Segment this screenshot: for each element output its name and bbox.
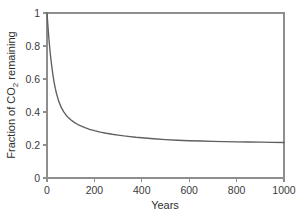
x-axis-tick-labels: 02004006008001000 [44, 184, 296, 196]
x-tick-label: 0 [44, 184, 50, 196]
x-tick-label: 200 [86, 184, 104, 196]
y-tick-label: 1 [34, 7, 40, 19]
y-tick-label: 0.4 [25, 106, 40, 118]
x-tick-label: 1000 [272, 184, 296, 196]
y-axis-title-prefix: Fraction of CO [5, 87, 17, 159]
x-tick-label: 400 [133, 184, 151, 196]
y-axis-title: Fraction of CO2 remaining [5, 31, 20, 158]
x-axis-title: Years [151, 199, 179, 211]
y-tick-label: 0.2 [25, 139, 40, 151]
y-tick-label: 0.8 [25, 40, 40, 52]
x-tick-label: 800 [228, 184, 246, 196]
y-tick-label: 0 [34, 172, 40, 184]
plot-background [47, 13, 284, 178]
y-tick-label: 0.6 [25, 73, 40, 85]
y-axis-title-suffix: remaining [5, 31, 17, 82]
co2-decay-line-chart: 00.20.40.60.81 02004006008001000 Years F… [0, 0, 303, 221]
chart-figure: 00.20.40.60.81 02004006008001000 Years F… [0, 0, 303, 221]
x-tick-label: 600 [180, 184, 198, 196]
y-axis-tick-labels: 00.20.40.60.81 [25, 7, 40, 184]
